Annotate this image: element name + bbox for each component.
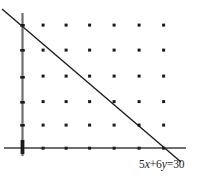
- lattice-dot: [65, 49, 68, 52]
- lattice-dot: [42, 75, 45, 78]
- lattice-dot: [138, 24, 141, 27]
- lattice-dot: [42, 24, 45, 27]
- lattice-dot: [138, 100, 141, 103]
- lattice-dot: [88, 24, 91, 27]
- lattice-dot: [88, 124, 91, 127]
- lattice-dot: [162, 75, 165, 78]
- lattice-dot: [88, 75, 91, 78]
- lattice-dot: [113, 49, 116, 52]
- lattice-dot: [42, 147, 45, 150]
- lattice-dot: [138, 49, 141, 52]
- lattice-dot: [65, 24, 68, 27]
- lattice-dot: [113, 100, 116, 103]
- lattice-dot: [88, 147, 91, 150]
- lattice-dot: [65, 147, 68, 150]
- y-axis-extension-tick: [21, 140, 25, 154]
- lattice-dot: [113, 147, 116, 150]
- lattice-dot: [88, 100, 91, 103]
- lattice-dot: [42, 49, 45, 52]
- lattice-dot: [113, 24, 116, 27]
- lattice-dot: [162, 100, 165, 103]
- lattice-dots-group: [42, 24, 166, 150]
- graph-canvas: [0, 0, 198, 179]
- y-tick-4: [20, 49, 25, 52]
- equation-label: 5x+6y=30: [139, 158, 184, 170]
- equation-line: [2, 9, 181, 162]
- lattice-dot: [162, 49, 165, 52]
- lattice-dot: [162, 124, 165, 127]
- lattice-dot: [65, 75, 68, 78]
- lattice-dot: [113, 124, 116, 127]
- lattice-dot: [42, 124, 45, 127]
- lattice-dot: [65, 124, 68, 127]
- lattice-dot: [138, 147, 141, 150]
- lattice-dot: [113, 75, 116, 78]
- lattice-point-graph-figure: 5x+6y=30: [0, 0, 198, 179]
- lattice-dot: [88, 49, 91, 52]
- y-tick-1: [20, 124, 25, 127]
- equation-rhs: 30: [173, 158, 184, 170]
- lattice-dot: [42, 100, 45, 103]
- lattice-dot: [138, 75, 141, 78]
- y-tick-3: [20, 76, 25, 79]
- lattice-dot: [65, 100, 68, 103]
- lattice-dot: [162, 24, 165, 27]
- y-tick-2: [20, 101, 25, 104]
